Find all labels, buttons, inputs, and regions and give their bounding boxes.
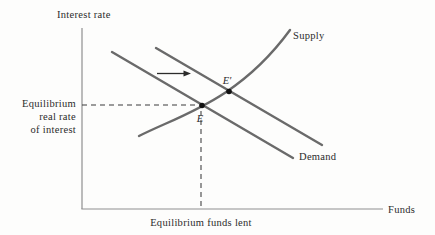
equilibrium-rate-line-1: Equilibrium	[22, 98, 76, 109]
equilibrium-funds-annotation: Equilibrium funds lent	[150, 217, 252, 228]
equilibrium-rate-line-3: of interest	[30, 124, 76, 135]
x-axis-label: Funds	[388, 204, 415, 215]
supply-curve-label: Supply	[293, 30, 325, 41]
equilibrium-rate-annotation: Equilibrium real rate of interest	[22, 98, 76, 135]
point-label-E: E	[196, 113, 204, 124]
demand-curve-shifted	[156, 48, 322, 145]
equilibrium-rate-line-2: real rate	[39, 111, 76, 122]
demand-shift-arrow-icon	[157, 70, 191, 76]
loanable-funds-figure: Interest rate Funds Supply Demand Equili…	[0, 0, 435, 235]
y-axis-label: Interest rate	[57, 9, 111, 20]
equilibrium-point-new	[226, 89, 232, 95]
demand-curve-label: Demand	[299, 151, 337, 162]
point-label-E-prime: E′	[222, 75, 232, 86]
diagram-canvas: Interest rate Funds Supply Demand Equili…	[0, 0, 435, 235]
equilibrium-point-initial	[199, 103, 205, 109]
